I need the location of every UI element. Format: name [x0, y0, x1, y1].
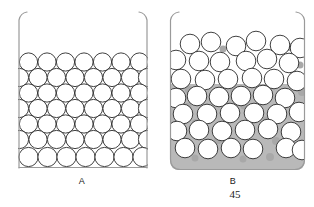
sphere: [221, 138, 241, 158]
sphere: [189, 51, 209, 71]
beaker-a-spheres: [10, 53, 156, 167]
sphere: [231, 86, 251, 106]
sphere: [220, 103, 240, 123]
sphere: [244, 103, 264, 123]
sphere: [114, 147, 133, 166]
beaker-a-label: A: [62, 177, 102, 186]
interstice: [240, 156, 247, 163]
sphere: [95, 147, 114, 166]
packing-diagram-svg: [0, 0, 314, 207]
sphere: [47, 130, 65, 148]
sphere: [187, 86, 207, 106]
sphere: [189, 120, 209, 140]
sphere: [235, 120, 255, 140]
interstice: [192, 155, 199, 162]
sphere: [66, 130, 84, 148]
sphere: [287, 71, 307, 91]
interstice: [266, 153, 274, 161]
figure-container: A B 45: [0, 0, 314, 207]
sphere: [38, 147, 57, 166]
sphere: [292, 140, 312, 160]
beaker-b-label: B: [213, 177, 253, 186]
sphere: [258, 119, 278, 139]
sphere: [175, 138, 195, 158]
sphere: [133, 147, 152, 166]
sphere: [279, 53, 299, 73]
sphere: [218, 69, 238, 89]
sphere: [257, 49, 277, 69]
sphere: [253, 85, 273, 105]
sphere: [84, 130, 102, 148]
interstice: [220, 46, 227, 53]
sphere: [76, 147, 95, 166]
sphere: [19, 147, 38, 166]
sphere: [201, 32, 221, 52]
sphere: [29, 130, 47, 148]
sphere: [166, 50, 186, 70]
beaker-a-group: [10, 12, 156, 168]
sphere: [57, 147, 76, 166]
sphere: [243, 139, 263, 159]
sphere: [212, 121, 232, 141]
sphere: [246, 31, 266, 51]
sphere: [121, 130, 139, 148]
beaker-b-group: [166, 12, 312, 170]
sphere: [289, 102, 309, 122]
page-number: 45: [215, 189, 255, 200]
sphere: [171, 69, 191, 89]
sphere: [242, 68, 262, 88]
sphere: [103, 130, 121, 148]
sphere: [198, 139, 218, 159]
sphere: [180, 34, 200, 54]
